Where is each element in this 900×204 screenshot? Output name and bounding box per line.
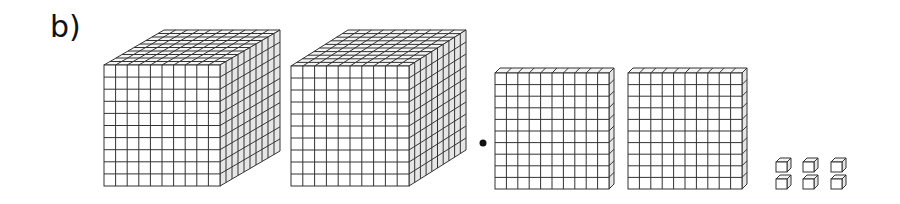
unit-cube-1 bbox=[776, 158, 791, 172]
hundred-flat-1 bbox=[495, 68, 614, 189]
separator-dot bbox=[480, 140, 487, 147]
unit-cube-3 bbox=[831, 158, 846, 172]
unit-cube-5 bbox=[803, 175, 818, 189]
unit-cube-6 bbox=[831, 175, 846, 189]
thousand-cube-2 bbox=[291, 30, 466, 186]
base-ten-blocks-diagram bbox=[0, 0, 900, 204]
unit-cube-4 bbox=[776, 175, 791, 189]
unit-cube-2 bbox=[803, 158, 818, 172]
thousand-cube-1 bbox=[104, 30, 280, 186]
hundred-flat-2 bbox=[628, 68, 747, 189]
